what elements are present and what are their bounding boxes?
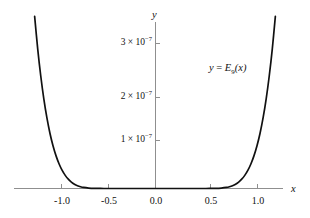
y-tick-base: 10 — [135, 91, 145, 101]
function-annotation: y = E9(x) — [209, 63, 246, 74]
multiplication-sign-icon: × — [128, 91, 133, 101]
y-tick-label-2e-7: 2 × 10−7 — [104, 92, 152, 102]
multiplication-sign-icon: × — [128, 134, 133, 144]
y-tick-mantissa: 3 — [121, 37, 126, 47]
x-tick-label-0.0: 0.0 — [136, 196, 176, 206]
x-tick-label-1.0: 1.0 — [238, 196, 278, 206]
y-tick-mantissa: 2 — [121, 91, 126, 101]
y-tick-base: 10 — [135, 37, 145, 47]
x-axis-title: x — [291, 184, 296, 195]
x-tick-label--0.5: -0.5 — [89, 196, 129, 206]
y-tick-base: 10 — [135, 134, 145, 144]
plot-canvas — [0, 0, 310, 218]
y-tick-label-3e-7: 3 × 10−7 — [104, 38, 152, 48]
multiplication-sign-icon: × — [128, 37, 133, 47]
y-tick-mantissa: 1 — [121, 134, 126, 144]
x-tick-label--1.0: -1.0 — [42, 196, 82, 206]
annotation-argument: (x) — [235, 62, 247, 73]
y-tick-label-1e-7: 1 × 10−7 — [104, 135, 152, 145]
y-tick-exponent: −7 — [145, 89, 152, 96]
annotation-equals-sign: = — [216, 62, 222, 73]
y-tick-exponent: −7 — [145, 132, 152, 139]
annotation-y-symbol: y — [209, 62, 214, 73]
x-tick-label-0.5: 0.5 — [191, 196, 231, 206]
y-tick-exponent: −7 — [145, 35, 152, 42]
y-axis-ticks — [156, 44, 161, 141]
chart-figure: 3 × 10−7 2 × 10−7 1 × 10−7 -1.0 -0.5 0.0… — [0, 0, 310, 218]
y-axis-title: y — [152, 10, 157, 21]
